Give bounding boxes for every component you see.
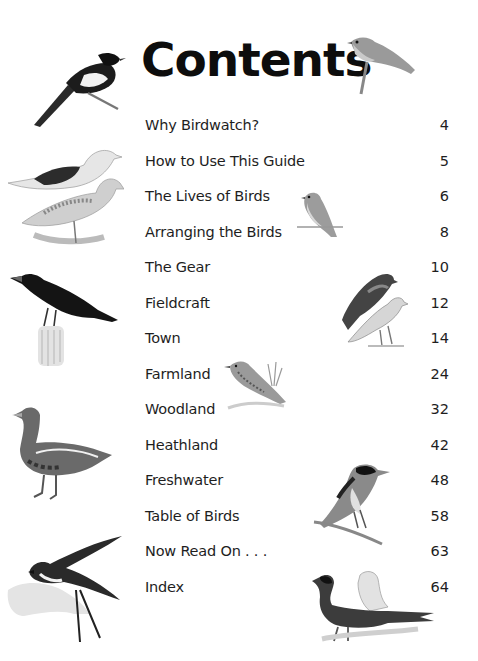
toc-entry[interactable]: Freshwater 48 — [145, 468, 449, 504]
toc-entry-label: The Lives of Birds — [145, 184, 270, 208]
toc-entry[interactable]: Table of Birds 58 — [145, 504, 449, 540]
pheasants-illustration — [308, 567, 436, 645]
toc-entry-label: How to Use This Guide — [145, 149, 305, 173]
toc-entry-page: 6 — [440, 184, 449, 208]
toc-entry-label: Why Birdwatch? — [145, 113, 259, 137]
page-title: Contents — [141, 30, 372, 90]
gulls-illustration — [4, 143, 124, 248]
toc-entry-label: Heathland — [145, 433, 218, 457]
toc-entry-label: Now Read On . . . — [145, 539, 267, 563]
toc-entry-label: The Gear — [145, 255, 210, 279]
finch-illustration — [297, 189, 347, 241]
toc-entry-label: Fieldcraft — [145, 291, 210, 315]
toc-entry[interactable]: How to Use This Guide 5 — [145, 149, 449, 185]
toc-entry-page: 12 — [431, 291, 449, 315]
toc-entry-page: 63 — [431, 539, 449, 563]
toc-entry-label: Farmland — [145, 362, 210, 386]
toc-entry-page: 48 — [431, 468, 449, 492]
toc-entry-page: 32 — [431, 397, 449, 421]
sparrowhawk-pair-illustration — [338, 268, 410, 350]
toc-entry-page: 10 — [431, 255, 449, 279]
toc-entry-label: Table of Birds — [145, 504, 239, 528]
toc-entry-label: Freshwater — [145, 468, 223, 492]
contents-page: Contents Why Birdwatch? 4 How to Use Thi… — [0, 0, 478, 661]
skylark-illustration — [224, 358, 296, 416]
rook-illustration — [8, 270, 120, 370]
toc-entry-label: Index — [145, 575, 184, 599]
toc-entry-page: 14 — [431, 326, 449, 350]
toc-entry-page: 58 — [431, 504, 449, 528]
goose-illustration — [8, 403, 114, 501]
stonechat-illustration — [312, 458, 392, 546]
robin-illustration — [343, 30, 423, 100]
toc-entry-page: 5 — [440, 149, 449, 173]
toc-entry[interactable]: Farmland 24 — [145, 362, 449, 398]
toc-entry-label: Town — [145, 326, 181, 350]
table-of-contents: Why Birdwatch? 4 How to Use This Guide 5… — [145, 113, 449, 610]
magpie-illustration — [28, 25, 128, 130]
toc-entry[interactable]: Why Birdwatch? 4 — [145, 113, 449, 149]
toc-entry-page: 4 — [440, 113, 449, 137]
toc-entry-label: Arranging the Birds — [145, 220, 282, 244]
toc-entry-page: 24 — [431, 362, 449, 386]
toc-entry[interactable]: Woodland 32 — [145, 397, 449, 433]
toc-entry[interactable]: Heathland 42 — [145, 433, 449, 469]
swallow-illustration — [4, 530, 122, 648]
toc-entry-page: 8 — [440, 220, 449, 244]
toc-entry-page: 42 — [431, 433, 449, 457]
toc-entry-label: Woodland — [145, 397, 215, 421]
